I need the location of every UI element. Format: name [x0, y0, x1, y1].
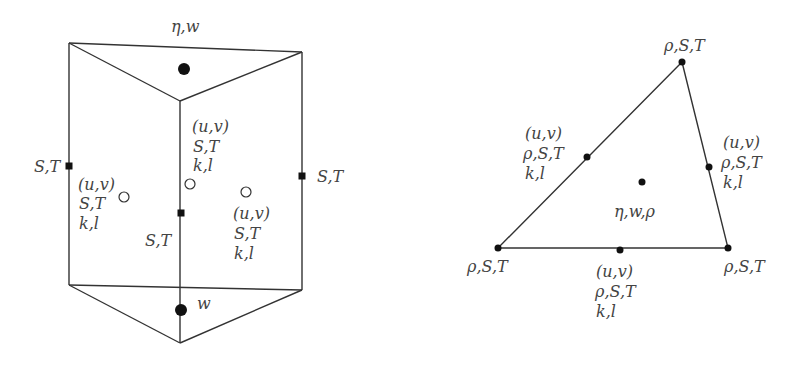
center-edge-label: S,T [145, 231, 172, 250]
left-edge-label: S,T [34, 157, 61, 176]
left-face-circle [119, 192, 129, 202]
left-mid-label-3: k,l [525, 164, 545, 183]
left-vertex-label: ρ,S,T [466, 257, 509, 276]
right-mid-dot [706, 164, 713, 171]
left-mid-dot [584, 154, 591, 161]
top-label: η,w [171, 17, 200, 36]
left-face-label-1: (u,v) [78, 175, 115, 194]
right-face-label-2: S,T [234, 224, 261, 243]
right-vertex-dot [725, 245, 732, 252]
left-mid-label-2: ρ,S,T [522, 144, 565, 163]
left-mid-label-1: (u,v) [525, 124, 562, 143]
left-face-label-3: k,l [79, 214, 99, 233]
triangle-element: ρ,S,T ρ,S,T ρ,S,T η,w,ρ (u,v) ρ,S,T k,l … [466, 36, 766, 321]
right-mid-label-1: (u,v) [723, 133, 760, 152]
right-face-label-3: k,l [234, 244, 254, 263]
back-face-label-2: S,T [193, 137, 220, 156]
left-edge-square [66, 163, 73, 170]
left-face-label-2: S,T [79, 194, 106, 213]
bottom-mid-label-2: ρ,S,T [594, 282, 637, 301]
bottom-mid-dot [617, 247, 624, 254]
right-edge-square [299, 173, 306, 180]
center-edge-square [178, 210, 185, 217]
left-vertex-dot [495, 245, 502, 252]
right-mid-label-2: ρ,S,T [720, 153, 763, 172]
top-node-dot [178, 63, 190, 75]
right-mid-label-3: k,l [723, 173, 743, 192]
bottom-mid-label-1: (u,v) [596, 262, 633, 281]
bottom-mid-label-3: k,l [596, 302, 616, 321]
right-face-label-1: (u,v) [233, 204, 270, 223]
center-label: η,w,ρ [614, 202, 656, 221]
back-face-circle [185, 179, 195, 189]
bottom-label: w [197, 294, 211, 313]
top-vertex-label: ρ,S,T [663, 36, 706, 55]
center-dot [639, 179, 646, 186]
right-edge-label: S,T [317, 167, 344, 186]
bottom-node-dot [175, 304, 187, 316]
top-vertex-dot [679, 59, 686, 66]
right-vertex-label: ρ,S,T [723, 257, 766, 276]
back-face-label-1: (u,v) [192, 117, 229, 136]
diagram-canvas: η,w w S,T S,T S,T (u,v) S,T k,l (u,v) S,… [0, 0, 804, 365]
back-face-label-3: k,l [193, 156, 213, 175]
prism-element: η,w w S,T S,T S,T (u,v) S,T k,l (u,v) S,… [34, 17, 344, 343]
right-face-circle [241, 187, 251, 197]
